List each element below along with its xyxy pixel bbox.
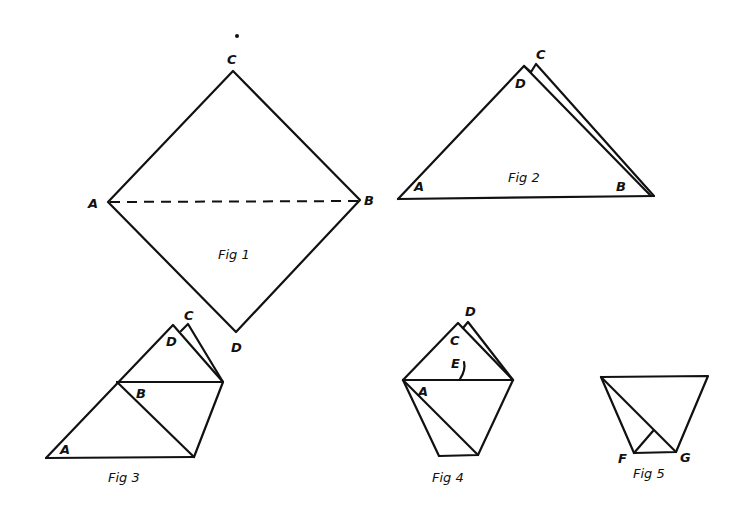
fig3-left-edge (46, 325, 223, 458)
fig4-label-c: C (450, 333, 460, 348)
paper-folding-diagram: C A B D Fig 1 C D A B Fig 2 C D B A Fig … (0, 0, 746, 523)
fig3-caption: Fig 3 (108, 470, 140, 485)
fig5-label-g: G (680, 450, 691, 465)
reference-dot (235, 34, 239, 38)
fig3-back-flap (181, 324, 223, 382)
fig5-label-f: F (618, 451, 627, 466)
fig3-label-d: D (166, 334, 177, 349)
fig4-label-d: D (465, 304, 476, 319)
figure-4: D C E A Fig 4 (403, 304, 513, 485)
fig4-front-top (403, 323, 513, 380)
fig5-small-fold (634, 431, 653, 453)
fig3-label-c: C (184, 308, 194, 323)
figure-3: C D B A Fig 3 (46, 308, 223, 485)
fig3-label-a: A (59, 442, 70, 457)
fig1-label-c: C (227, 52, 237, 67)
fig4-caption: Fig 4 (432, 470, 464, 485)
figure-2: C D A B Fig 2 (398, 47, 654, 199)
fig4-diagonal (403, 380, 478, 455)
figure-5: F G Fig 5 (601, 376, 708, 481)
fig2-caption: Fig 2 (508, 170, 540, 185)
fig4-pointer-arrow (460, 362, 465, 379)
fig2-label-b: B (616, 179, 626, 194)
fig3-right-edge (194, 382, 223, 457)
fig2-label-a: A (413, 179, 424, 194)
fig1-label-a: A (87, 196, 98, 211)
fig4-label-e: E (451, 356, 460, 371)
fig4-label-a: A (417, 384, 428, 399)
fig2-base (398, 196, 654, 199)
fig1-label-b: B (364, 193, 374, 208)
fig5-caption: Fig 5 (633, 466, 665, 481)
fig3-label-b: B (136, 386, 146, 401)
fig1-caption: Fig 1 (218, 247, 250, 262)
fig2-back-edge (531, 64, 654, 196)
fig5-trapezoid (601, 376, 708, 453)
fig2-label-d: D (515, 76, 526, 91)
fig3-diagonal (117, 382, 194, 457)
figure-1: C A B D Fig 1 (87, 34, 374, 355)
fig5-diagonal (601, 377, 676, 452)
fig1-fold-line (110, 201, 358, 202)
fig1-label-d: D (231, 340, 242, 355)
fig2-label-c: C (536, 47, 546, 62)
fig2-front-right (524, 66, 651, 196)
fig4-back-flap (463, 322, 513, 380)
fig3-base (46, 457, 194, 458)
